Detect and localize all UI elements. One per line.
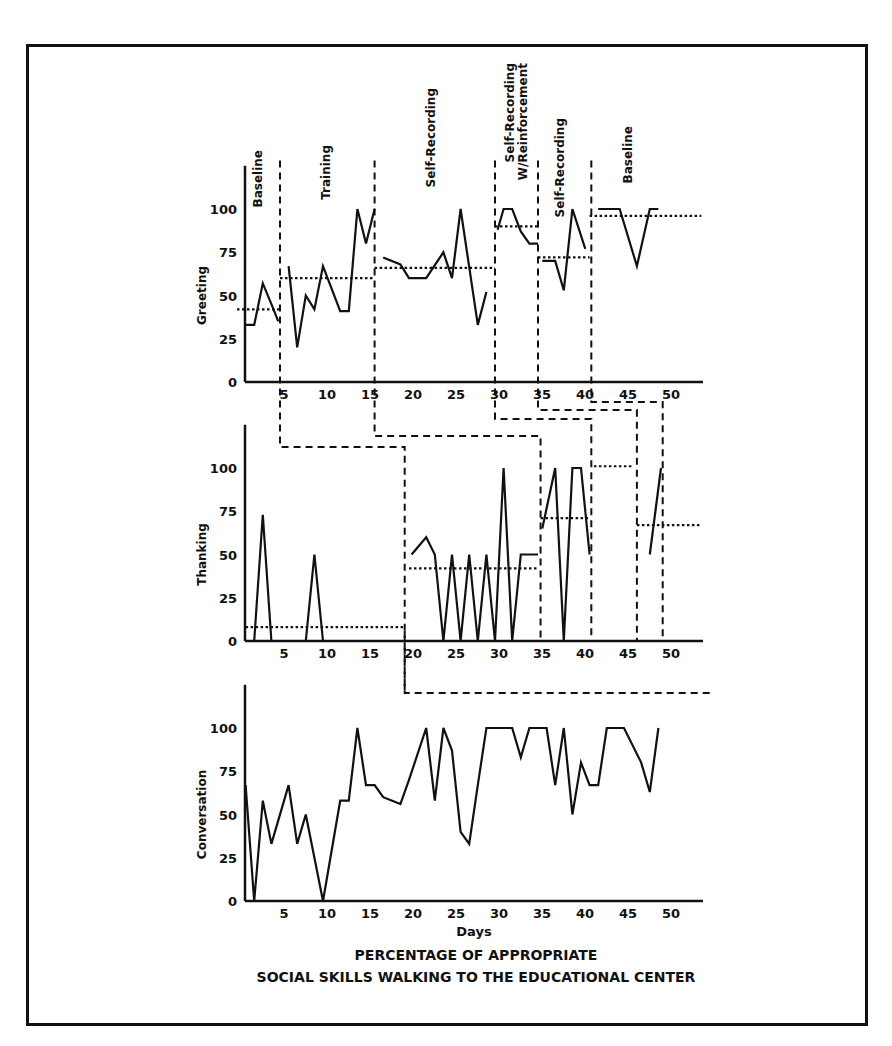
multiple-baseline-chart: 02550751005101520253035404550Greeting025… <box>0 0 892 1046</box>
conversation-y-tick-label: 25 <box>219 851 237 866</box>
thanking-data-line <box>650 468 661 555</box>
greeting-x-tick-label: 30 <box>490 387 508 402</box>
greeting-x-tick-label: 10 <box>318 387 336 402</box>
conversation-y-tick-label: 100 <box>210 721 237 736</box>
greeting-x-tick-label: 15 <box>361 387 379 402</box>
greeting-y-tick-label: 75 <box>219 245 237 260</box>
conversation-y-axis-label: Conversation <box>195 770 209 859</box>
chart-title: PERCENTAGE OF APPROPRIATE <box>355 947 598 963</box>
thanking-y-tick-label: 100 <box>210 461 237 476</box>
phase-label: Baseline <box>251 150 265 207</box>
greeting-x-tick-label: 35 <box>533 387 551 402</box>
thanking-y-axis-label: Thanking <box>195 523 209 586</box>
thanking-x-tick-label: 30 <box>490 646 508 661</box>
thanking-data-line <box>542 468 589 641</box>
conversation-x-tick-label: 35 <box>533 906 551 921</box>
conversation-y-tick-label: 50 <box>219 808 237 823</box>
phase-change-line <box>280 161 405 694</box>
thanking-x-tick-label: 35 <box>533 646 551 661</box>
greeting-y-tick-label: 100 <box>210 202 237 217</box>
thanking-y-tick-label: 0 <box>228 634 237 649</box>
phase-label: Self-Recording <box>553 118 567 217</box>
conversation-x-tick-label: 10 <box>318 906 336 921</box>
greeting-data-line <box>542 209 585 290</box>
conversation-x-tick-label: 45 <box>619 906 637 921</box>
greeting-x-tick-label: 25 <box>447 387 465 402</box>
thanking-x-tick-label: 50 <box>662 646 680 661</box>
thanking-y-tick-label: 25 <box>219 591 237 606</box>
greeting-y-tick-label: 0 <box>228 375 237 390</box>
greeting-y-axis-label: Greeting <box>195 266 209 325</box>
phase-label: Self-Recording <box>503 63 517 162</box>
phase-label: Self-Recording <box>424 88 438 187</box>
greeting-data-line <box>598 209 658 266</box>
conversation-y-tick-label: 0 <box>228 894 237 909</box>
greeting-x-tick-label: 50 <box>662 387 680 402</box>
thanking-x-tick-label: 15 <box>361 646 379 661</box>
thanking-x-tick-label: 45 <box>619 646 637 661</box>
greeting-y-tick-label: 25 <box>219 332 237 347</box>
thanking-y-tick-label: 75 <box>219 504 237 519</box>
conversation-x-tick-label: 20 <box>404 906 422 921</box>
chart-subtitle: SOCIAL SKILLS WALKING TO THE EDUCATIONAL… <box>257 969 696 985</box>
greeting-data-line <box>246 283 279 325</box>
thanking-x-tick-label: 40 <box>576 646 594 661</box>
greeting-x-tick-label: 20 <box>404 387 422 402</box>
thanking-x-tick-label: 5 <box>279 646 288 661</box>
thanking-x-tick-label: 10 <box>318 646 336 661</box>
thanking-data-line <box>412 468 538 641</box>
conversation-x-tick-label: 25 <box>447 906 465 921</box>
thanking-data-line <box>254 515 323 641</box>
thanking-x-tick-label: 25 <box>447 646 465 661</box>
conversation-data-line <box>246 728 659 901</box>
phase-label: Training <box>319 145 333 200</box>
thanking-y-tick-label: 50 <box>219 548 237 563</box>
conversation-x-tick-label: 40 <box>576 906 594 921</box>
phase-label: Baseline <box>621 126 635 183</box>
thanking-x-tick-label: 20 <box>404 646 422 661</box>
conversation-x-tick-label: 50 <box>662 906 680 921</box>
conversation-x-tick-label: 5 <box>279 906 288 921</box>
conversation-y-tick-label: 75 <box>219 764 237 779</box>
conversation-x-tick-label: 30 <box>490 906 508 921</box>
x-axis-label: Days <box>456 924 492 939</box>
greeting-x-tick-label: 45 <box>619 387 637 402</box>
greeting-y-tick-label: 50 <box>219 289 237 304</box>
phase-label: W/Reinforcement <box>516 63 530 180</box>
conversation-x-tick-label: 15 <box>361 906 379 921</box>
